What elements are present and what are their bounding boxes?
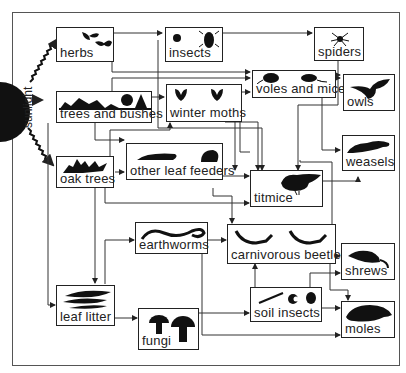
node-leaf-litter[interactable]: leaf litter <box>56 285 115 326</box>
label-titmice: titmice <box>254 190 293 205</box>
label-spiders: spiders <box>318 44 361 59</box>
label-weasels: weasels <box>346 154 394 169</box>
node-shrews[interactable]: shrews <box>341 243 395 280</box>
soil-insects-icon <box>257 291 319 305</box>
label-voles-and-mice: voles and mice <box>256 81 346 96</box>
label-oak-trees: oak trees <box>60 171 115 186</box>
label-other-leaf-feeders: other leaf feeders <box>130 163 235 178</box>
node-other-leaf-feeders[interactable]: other leaf feeders <box>126 143 223 180</box>
beetles-icon <box>234 229 332 247</box>
node-earthworms[interactable]: earthworms <box>135 222 208 254</box>
label-carnivorous-beetles: carnivorous beetles <box>231 247 348 262</box>
node-oak-trees[interactable]: oak trees <box>56 156 114 188</box>
label-winter-moths: winter moths <box>170 105 246 120</box>
label-shrews: shrews <box>345 263 387 278</box>
label-owls: owls <box>347 94 374 109</box>
label-herbs: herbs <box>60 45 94 60</box>
node-weasels[interactable]: weasels <box>342 135 395 171</box>
node-moles[interactable]: moles <box>341 301 395 338</box>
node-spiders[interactable]: spiders <box>314 27 364 61</box>
label-leaf-litter: leaf litter <box>60 309 111 324</box>
leaf-litter-icon <box>63 290 111 310</box>
node-soil-insects[interactable]: soil insects <box>250 287 322 322</box>
node-fungi[interactable]: fungi <box>138 308 199 350</box>
node-titmice[interactable]: titmice <box>250 170 323 207</box>
node-herbs[interactable]: herbs <box>56 27 114 62</box>
node-voles-and-mice[interactable]: voles and mice <box>252 70 336 98</box>
node-insects[interactable]: insects <box>165 27 223 62</box>
label-insects: insects <box>169 45 211 60</box>
label-earthworms: earthworms <box>139 237 209 252</box>
sunlight-label: sunlight <box>21 87 35 128</box>
node-winter-moths[interactable]: winter moths <box>166 84 242 122</box>
moths-icon <box>173 87 237 103</box>
label-moles: moles <box>345 321 381 336</box>
label-trees-and-bushes: trees and bushes <box>60 106 163 121</box>
node-carnivorous-beetles[interactable]: carnivorous beetles <box>227 224 336 264</box>
node-trees-and-bushes[interactable]: trees and bushes <box>56 91 152 123</box>
label-soil-insects: soil insects <box>254 305 320 320</box>
weasel-icon <box>347 139 393 155</box>
slug-snail-icon <box>137 148 221 164</box>
node-owls[interactable]: owls <box>343 74 395 111</box>
label-fungi: fungi <box>142 333 171 348</box>
